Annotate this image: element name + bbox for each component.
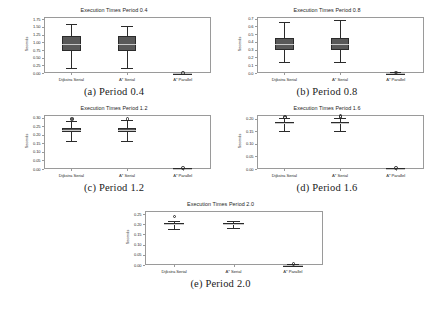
box-median: [275, 123, 294, 124]
x-axis-tick-mark: [340, 73, 341, 75]
y-axis-tick-label: 0.1: [235, 63, 254, 68]
figure-page: Execution Times Period 0.4Seconds0.000.2…: [0, 0, 441, 318]
y-axis-tick-mark: [42, 143, 44, 144]
box-whisker: [340, 20, 341, 38]
whisker-cap: [66, 24, 77, 25]
box-whisker: [284, 124, 285, 131]
y-axis-tick-mark: [143, 255, 145, 256]
whisker-cap: [121, 141, 132, 142]
box-median: [164, 224, 184, 225]
y-axis-tick-mark: [255, 73, 257, 74]
y-axis-tick-mark: [255, 42, 257, 43]
y-axis-tick-mark: [255, 156, 257, 157]
y-axis-tick-label: 1.50: [22, 24, 41, 29]
x-axis-tick-label: A* Serial: [99, 77, 155, 82]
y-axis-tick-mark: [42, 160, 44, 161]
chart-title: Execution Times Period 1.6: [221, 105, 434, 111]
x-axis-tick-label: A* Serial: [312, 173, 368, 178]
x-axis-tick-mark: [284, 169, 285, 171]
box-median: [223, 224, 243, 225]
whisker-cap: [279, 131, 290, 132]
y-axis-tick-mark: [255, 169, 257, 170]
y-axis-tick-mark: [42, 169, 44, 170]
y-axis-tick-label: 0.05: [235, 154, 254, 159]
y-axis-tick-label: 0.10: [123, 242, 142, 247]
y-axis-tick-mark: [42, 126, 44, 127]
y-axis-tick-mark: [42, 50, 44, 51]
box-whisker: [284, 22, 285, 38]
box-outlier: [292, 262, 296, 266]
x-axis-tick-mark: [284, 73, 285, 75]
whisker-cap: [334, 131, 345, 132]
y-axis-tick-mark: [143, 224, 145, 225]
x-axis-tick-mark: [71, 73, 72, 75]
y-axis-tick-label: 0.5: [235, 32, 254, 37]
box-median: [331, 44, 350, 45]
subfigure-b: Execution Times Period 0.8Seconds0.00.10…: [221, 6, 434, 97]
y-axis-tick-mark: [42, 58, 44, 59]
y-axis-tick-mark: [255, 119, 257, 120]
whisker-cap: [334, 62, 345, 63]
whisker-cap: [227, 228, 239, 229]
whisker-cap: [279, 22, 290, 23]
x-axis-tick-label: A* Parallel: [155, 77, 211, 82]
y-axis-tick-label: 0.7: [235, 16, 254, 21]
box-whisker: [127, 132, 128, 141]
box-whisker: [127, 120, 128, 128]
box-whisker: [71, 121, 72, 128]
y-axis-tick-mark: [255, 34, 257, 35]
y-axis-tick-mark: [42, 42, 44, 43]
x-axis-tick-mark: [340, 169, 341, 171]
chart-title: Execution Times Period 0.8: [221, 7, 434, 13]
y-axis-tick-mark: [42, 19, 44, 20]
x-axis-tick-label: A* Parallel: [263, 269, 322, 274]
box-whisker: [284, 50, 285, 62]
y-axis-tick-label: 0.25: [123, 212, 142, 217]
x-axis-tick-label: Dijkstra Serial: [44, 173, 100, 178]
subfigure-a: Execution Times Period 0.4Seconds0.000.2…: [8, 6, 221, 97]
y-axis-tick-mark: [255, 19, 257, 20]
y-axis-tick-label: 1.00: [22, 40, 41, 45]
y-axis-tick-label: 0.00: [22, 71, 41, 76]
whisker-cap: [121, 68, 132, 69]
x-axis-tick-mark: [234, 265, 235, 267]
whisker-cap: [334, 20, 345, 21]
caption-b: (b) Period 0.8: [221, 86, 434, 97]
y-axis-tick-label: 0.15: [22, 141, 41, 146]
y-axis-tick-mark: [42, 35, 44, 36]
y-axis-tick-mark: [143, 245, 145, 246]
subfigure-c: Execution Times Period 1.2Seconds0.000.0…: [8, 104, 221, 193]
whisker-cap: [121, 26, 132, 27]
y-axis-tick-label: 0.00: [123, 263, 142, 268]
subfigure-row-1: Execution Times Period 0.4Seconds0.000.2…: [0, 0, 441, 97]
y-axis-tick-label: 0.10: [22, 149, 41, 154]
x-axis-tick-mark: [127, 169, 128, 171]
whisker-cap: [66, 141, 77, 142]
y-axis-tick-mark: [42, 135, 44, 136]
y-axis-tick-label: 0.20: [22, 132, 41, 137]
x-axis-tick-label: A* Parallel: [368, 77, 424, 82]
y-axis-tick-label: 0.00: [235, 167, 254, 172]
caption-d: (d) Period 1.6: [221, 182, 434, 193]
x-axis-tick-label: A* Parallel: [368, 173, 424, 178]
y-axis-tick-label: 0.30: [22, 115, 41, 120]
whisker-cap: [279, 62, 290, 63]
x-axis-tick-mark: [71, 169, 72, 171]
y-axis-tick-mark: [42, 152, 44, 153]
boxplot-period-1-6: Execution Times Period 1.6Seconds0.000.0…: [221, 104, 434, 182]
y-axis-tick-mark: [255, 57, 257, 58]
x-axis-tick-label: Dijkstra Serial: [257, 77, 313, 82]
caption-c: (c) Period 1.2: [8, 182, 221, 193]
chart-title: Execution Times Period 0.4: [8, 7, 221, 13]
y-axis-tick-mark: [143, 234, 145, 235]
whisker-cap: [227, 221, 239, 222]
y-axis-tick-mark: [42, 65, 44, 66]
y-axis-tick-label: 0.15: [123, 232, 142, 237]
y-axis-tick-label: 0.4: [235, 39, 254, 44]
y-axis-tick-label: 0.75: [22, 48, 41, 53]
box-outlier: [283, 115, 287, 119]
y-axis-tick-mark: [42, 118, 44, 119]
box-outlier: [394, 166, 398, 170]
box-median: [331, 123, 350, 124]
x-axis-tick-label: Dijkstra Serial: [145, 269, 204, 274]
